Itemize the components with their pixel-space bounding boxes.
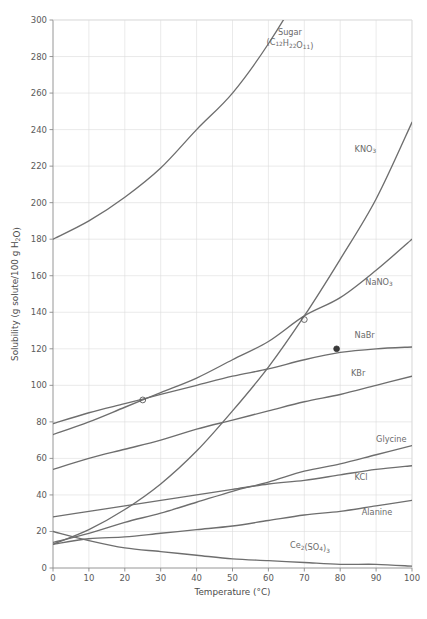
y-axis-tick-label: 100 — [31, 380, 47, 390]
x-axis-tick-label: 90 — [371, 573, 382, 583]
text-run: NaBr — [355, 330, 376, 340]
series-label-glycine: Glycine — [376, 434, 406, 444]
text-run: Alanine — [362, 507, 393, 517]
x-axis-tick-label: 40 — [191, 573, 202, 583]
grid-lines — [53, 20, 412, 568]
x-axis-tick-label: 10 — [83, 573, 94, 583]
x-axis-tick-label: 70 — [299, 573, 310, 583]
text-run: Solubility (g solute/100 g H — [10, 241, 20, 361]
y-axis-tick-label: 80 — [36, 417, 47, 427]
y-axis-tick-label: 280 — [31, 52, 47, 62]
x-axis-title: Temperature (°C) — [194, 587, 271, 597]
series-label-kcl: KCl — [355, 472, 368, 482]
series-labels: Sugar(C12H22O11)KNO3NaNO3NaBrKBrGlycineK… — [266, 27, 406, 554]
text-run: KNO — [355, 144, 373, 154]
series-label-kno3: KNO3 — [355, 144, 377, 155]
text-run: ) — [310, 41, 313, 51]
x-axis-tick-label: 100 — [404, 573, 420, 583]
text-run: Ce — [290, 540, 301, 550]
series-label-ce2-so4-3: Ce2(SO4)3 — [290, 540, 330, 554]
x-axis-tick-label: 60 — [263, 573, 274, 583]
y-axis-tick-label: 200 — [31, 198, 47, 208]
y-axis-tick-label: 20 — [36, 526, 47, 536]
data-point-markers — [140, 317, 340, 403]
y-axis-tick-label: 240 — [31, 125, 47, 135]
y-axis-tick-label: 140 — [31, 307, 47, 317]
y-axis-tick-label: 300 — [31, 15, 47, 25]
subscript: 3 — [389, 281, 393, 287]
y-axis-tick-label: 120 — [31, 344, 47, 354]
x-axis-tick-label: 50 — [227, 573, 238, 583]
x-axis-tick-label: 80 — [335, 573, 346, 583]
series-label-nano3: NaNO3 — [365, 277, 393, 288]
series-label-sugar: Sugar — [278, 27, 303, 37]
axis-ticks — [50, 20, 413, 572]
text-run: O) — [12, 227, 22, 237]
chart-svg: 0102030405060708090100020406080100120140… — [0, 0, 427, 619]
text-run: (C — [266, 37, 275, 47]
text-run: Sugar — [278, 27, 303, 37]
x-axis-tick-label: 0 — [50, 573, 55, 583]
series-label-alanine: Alanine — [362, 507, 393, 517]
filled-dot-nabr-79 — [334, 346, 340, 352]
text-run: (SO — [304, 542, 319, 552]
y-axis-tick-label: 60 — [36, 453, 47, 463]
solubility-chart: 0102030405060708090100020406080100120140… — [0, 0, 427, 619]
series-label-sugar-formula: (C12H22O11) — [266, 37, 313, 52]
text-run: NaNO — [365, 277, 389, 287]
y-axis-title: Solubility (g solute/100 g H2O) — [10, 227, 22, 361]
subscript: 3 — [326, 548, 330, 554]
y-axis-tick-label: 180 — [31, 234, 47, 244]
y-axis-tick-label: 260 — [31, 88, 47, 98]
x-axis-tick-label: 20 — [119, 573, 130, 583]
y-axis-tick-label: 220 — [31, 161, 47, 171]
text-run: KBr — [351, 368, 366, 378]
subscript: 3 — [373, 148, 377, 154]
y-axis-tick-label: 0 — [42, 563, 47, 573]
text-run: Glycine — [376, 434, 406, 444]
y-axis-tick-label: 160 — [31, 271, 47, 281]
series-label-kbr: KBr — [351, 368, 366, 378]
series-label-nabr: NaBr — [355, 330, 376, 340]
x-axis-tick-label: 30 — [155, 573, 166, 583]
text-run: KCl — [355, 472, 368, 482]
y-axis-tick-label: 40 — [36, 490, 47, 500]
